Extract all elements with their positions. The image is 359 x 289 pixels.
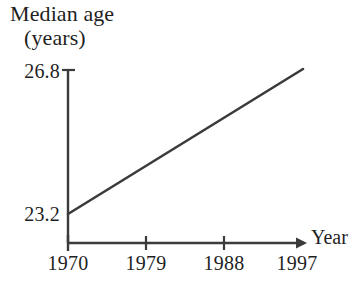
x-axis-label-1988: 1988	[189, 252, 259, 275]
chart-figure: Median age (years) 26.8 23.2 1970 1979 1…	[0, 0, 359, 289]
y-axis-label-max: 26.8	[8, 60, 60, 83]
x-axis-label-1997: 1997	[262, 252, 332, 275]
x-axis-label-1979: 1979	[111, 252, 181, 275]
y-axis-label-min: 23.2	[8, 203, 60, 226]
data-series-line	[68, 69, 303, 214]
x-axis-label-1970: 1970	[33, 252, 103, 275]
x-axis-arrow-icon	[296, 238, 307, 249]
x-axis-title: Year	[311, 226, 348, 249]
plot-area	[0, 0, 359, 289]
